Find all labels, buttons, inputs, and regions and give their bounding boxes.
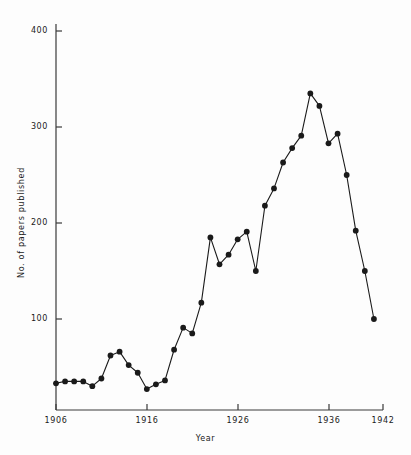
data-point-1913 bbox=[117, 349, 123, 355]
data-point-1909 bbox=[80, 379, 86, 385]
y-tick-label-100: 100 bbox=[18, 314, 48, 323]
x-tick-label-1936: 1936 bbox=[309, 416, 349, 425]
data-point-1922 bbox=[198, 300, 204, 306]
x-tick-label-1942: 1942 bbox=[363, 416, 403, 425]
data-point-1910 bbox=[89, 383, 95, 389]
x-tick-label-1926: 1926 bbox=[218, 416, 258, 425]
data-point-1939 bbox=[353, 228, 359, 234]
data-point-1931 bbox=[280, 160, 286, 166]
data-point-1926 bbox=[235, 236, 241, 242]
data-point-1941 bbox=[371, 316, 377, 322]
data-point-1918 bbox=[162, 378, 168, 384]
plot-area bbox=[0, 0, 411, 455]
x-axis-ticks bbox=[56, 404, 383, 410]
data-point-1935 bbox=[317, 103, 323, 109]
data-point-1911 bbox=[99, 376, 105, 382]
data-point-1930 bbox=[271, 186, 277, 192]
data-point-1915 bbox=[135, 370, 141, 376]
data-point-1906 bbox=[53, 380, 59, 386]
data-point-1925 bbox=[226, 252, 232, 258]
data-series-line bbox=[56, 93, 374, 389]
data-point-1908 bbox=[71, 379, 77, 385]
data-point-1932 bbox=[289, 145, 295, 151]
data-point-1927 bbox=[244, 229, 250, 235]
data-point-1921 bbox=[189, 331, 195, 337]
x-tick-label-1916: 1916 bbox=[127, 416, 167, 425]
y-axis-title: No. of papers published bbox=[17, 158, 26, 288]
data-point-1923 bbox=[208, 235, 214, 241]
data-point-1917 bbox=[153, 381, 159, 387]
line-chart-figure: 400 300 200 100 1906 1916 1926 1936 1942… bbox=[0, 0, 411, 455]
data-point-1919 bbox=[171, 347, 177, 353]
axis-lines bbox=[56, 24, 383, 410]
data-point-1907 bbox=[62, 379, 68, 385]
data-point-1912 bbox=[108, 353, 114, 359]
data-point-markers bbox=[53, 91, 377, 392]
data-point-1928 bbox=[253, 268, 259, 274]
y-tick-label-400: 400 bbox=[18, 26, 48, 35]
data-point-1924 bbox=[217, 261, 223, 267]
y-tick-label-300: 300 bbox=[18, 122, 48, 131]
data-point-1938 bbox=[344, 172, 350, 178]
data-point-1916 bbox=[144, 386, 150, 392]
data-point-1940 bbox=[362, 268, 368, 274]
data-point-1920 bbox=[180, 325, 186, 331]
data-point-1937 bbox=[335, 131, 341, 137]
data-point-1936 bbox=[326, 140, 332, 146]
x-axis-title: Year bbox=[0, 434, 411, 443]
data-point-1914 bbox=[126, 362, 132, 368]
y-axis-ticks bbox=[56, 31, 62, 319]
data-point-1934 bbox=[307, 91, 313, 97]
data-point-1933 bbox=[298, 133, 304, 139]
x-tick-label-1906: 1906 bbox=[36, 416, 76, 425]
data-point-1929 bbox=[262, 203, 268, 209]
